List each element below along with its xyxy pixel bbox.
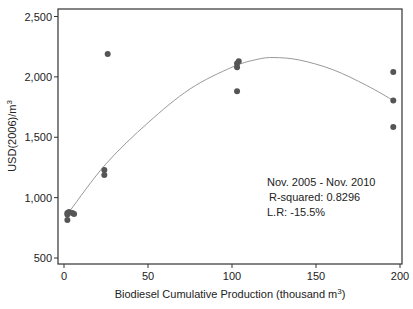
annotation-learning-rate: L.R: -15.5%	[267, 206, 325, 218]
x-tick-label: 100	[223, 270, 241, 282]
x-tick-label: 150	[307, 270, 325, 282]
x-tick-label: 0	[61, 270, 67, 282]
y-tick-label: 2,500	[24, 11, 52, 23]
y-axis-label: USD(2006)/m3	[5, 100, 18, 172]
data-point	[64, 212, 70, 218]
data-point	[105, 51, 111, 57]
data-point	[234, 64, 240, 70]
x-tick-label: 50	[142, 270, 154, 282]
annotation-period: Nov. 2005 - Nov. 2010	[267, 176, 375, 188]
data-point	[71, 211, 77, 217]
y-axis-ticks: 5001,0001,5002,0002,500	[24, 11, 58, 265]
data-point	[390, 124, 396, 130]
x-axis-ticks: 050100150200	[61, 264, 409, 282]
y-tick-label: 1,000	[24, 192, 52, 204]
data-point	[234, 88, 240, 94]
y-tick-label: 500	[34, 252, 52, 264]
data-point	[64, 217, 70, 223]
data-point	[390, 69, 396, 75]
data-point	[390, 97, 396, 103]
plot-frame	[58, 9, 402, 264]
annotation-r-squared: R-squared: 0.8296	[269, 191, 360, 203]
x-axis-label: Biodiesel Cumulative Production (thousan…	[115, 287, 346, 300]
data-point	[101, 172, 107, 178]
y-tick-label: 2,000	[24, 71, 52, 83]
y-tick-label: 1,500	[24, 131, 52, 143]
learning-curve-chart: 5001,0001,5002,0002,500 050100150200 Nov…	[0, 0, 413, 309]
x-tick-label: 200	[391, 270, 409, 282]
